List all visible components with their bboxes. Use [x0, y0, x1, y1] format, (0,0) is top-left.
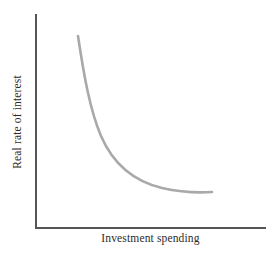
plot-area: [0, 0, 280, 253]
investment-demand-chart: Real rate of interest Investment spendin…: [0, 0, 280, 253]
x-axis-label: Investment spending: [36, 232, 265, 244]
y-axis-label: Real rate of interest: [11, 75, 23, 169]
investment-demand-curve: [78, 36, 212, 192]
y-axis-label-container: Real rate of interest: [0, 15, 34, 228]
